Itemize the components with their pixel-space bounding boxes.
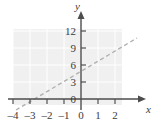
x-tick-label-minus3: –3: [21, 110, 39, 121]
y-tick-label-six: 6: [58, 60, 76, 71]
y-tick-label-three: 3: [58, 77, 76, 88]
x-tick-label-minus4: –4: [4, 110, 22, 121]
y-axis-arrowhead: [78, 11, 85, 19]
coordinate-plane-figure: –4 –3 –2 –1 0 1 2 0 3 6 9 12 x y: [0, 0, 155, 133]
x-tick-label-minus1: –1: [55, 110, 73, 121]
y-axis-name: y: [75, 1, 80, 12]
x-axis-name: x: [146, 104, 151, 115]
y-tick-label-twelve: 12: [58, 26, 76, 37]
x-tick-label-minus2: –2: [38, 110, 56, 121]
x-tick-label-zero: 0: [72, 110, 90, 121]
x-axis-arrowhead: [138, 96, 146, 103]
y-tick-label-nine: 9: [58, 43, 76, 54]
x-tick-label-one: 1: [89, 110, 107, 121]
x-tick-label-two: 2: [106, 110, 124, 121]
y-tick-label-zero: 0: [58, 94, 76, 105]
